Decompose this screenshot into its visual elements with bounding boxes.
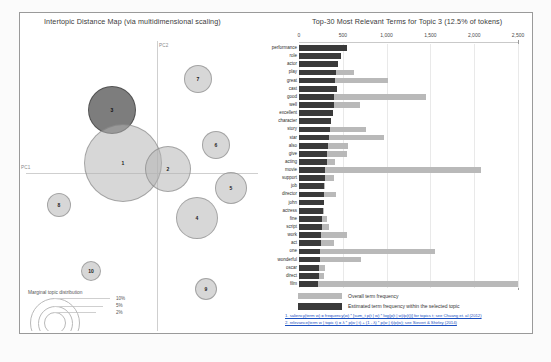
marginal-size-label: 10% <box>116 296 125 301</box>
topic-frequency-bar <box>299 240 321 246</box>
term-bar-row[interactable]: script <box>299 224 518 230</box>
topic-bubble-6[interactable]: 6 <box>202 131 230 159</box>
topic-bubble-2[interactable]: 2 <box>145 146 191 192</box>
term-label[interactable]: act <box>291 241 297 246</box>
term-bar-row[interactable]: director <box>299 192 518 198</box>
topic-bubble-label: 9 <box>205 287 208 292</box>
term-label[interactable]: support <box>282 176 297 181</box>
term-bar-row[interactable]: also <box>299 143 518 149</box>
term-bar-row[interactable]: john <box>299 200 518 206</box>
topic-bubble-4[interactable]: 4 <box>176 197 218 239</box>
legend-row-overall: Overall term frequency <box>298 292 533 300</box>
term-bar-row[interactable]: oscar <box>299 265 518 271</box>
topic-bubble-10[interactable]: 10 <box>81 261 101 281</box>
term-label[interactable]: film <box>290 282 297 287</box>
term-label[interactable]: give <box>289 152 297 157</box>
marginal-topic-distribution-legend: Marginal topic distribution 2%5%10% <box>28 290 148 331</box>
footnote-saliency[interactable]: 1. saliency(term w) = frequency(w) * [su… <box>285 312 535 319</box>
term-label[interactable]: one <box>289 249 297 254</box>
topic-bubble-5[interactable]: 5 <box>215 172 247 204</box>
term-label[interactable]: actor <box>287 62 297 67</box>
topic-frequency-bar <box>299 232 321 238</box>
term-bar-row[interactable]: direct <box>299 273 518 279</box>
term-bar-row[interactable]: act <box>299 240 518 246</box>
topic-bubble-label: 1 <box>122 161 125 166</box>
topic-frequency-bar <box>299 70 336 76</box>
term-bar-row[interactable]: film <box>299 281 518 287</box>
term-label[interactable]: direct <box>286 274 297 279</box>
term-label[interactable]: script <box>286 225 297 230</box>
term-label[interactable]: good <box>287 95 297 100</box>
topic-bubble-label: 5 <box>230 186 233 191</box>
term-bar-row[interactable]: fine <box>299 216 518 222</box>
term-bar-row[interactable]: give <box>299 151 518 157</box>
term-bar-row[interactable]: actress <box>299 208 518 214</box>
barchart-title: Top-30 Most Relevant Terms for Topic 3 (… <box>312 17 502 26</box>
term-label[interactable]: actress <box>282 208 297 213</box>
term-bar-row[interactable]: well <box>299 102 518 108</box>
term-label[interactable]: excellent <box>279 111 297 116</box>
overall-frequency-label: Overall term frequency <box>348 293 399 300</box>
term-bar-row[interactable]: one <box>299 249 518 255</box>
topic-bubble-label: 4 <box>196 216 199 221</box>
x-tick-label: 2,500 <box>512 32 525 38</box>
overall-frequency-swatch <box>298 293 342 300</box>
term-bar-row[interactable]: acting <box>299 159 518 165</box>
term-bar-row[interactable]: play <box>299 70 518 76</box>
term-label[interactable]: wonderful <box>277 257 297 262</box>
term-bar-row[interactable]: character <box>299 118 518 124</box>
relevant-terms-barchart[interactable]: 05001,0001,5002,0002,500 performancerole… <box>258 30 530 288</box>
topic-frequency-bar <box>299 86 337 92</box>
term-bar-row[interactable]: story <box>299 127 518 133</box>
term-bar-row[interactable]: support <box>299 175 518 181</box>
overall-frequency-bar <box>299 167 481 173</box>
term-label[interactable]: star <box>289 135 297 140</box>
footnote-relevance[interactable]: 2. relevance(term w | topic t) = λ * p(w… <box>285 319 535 326</box>
term-bar-row[interactable]: job <box>299 183 518 189</box>
term-label[interactable]: work <box>287 233 297 238</box>
topic-frequency-bar <box>299 192 324 198</box>
term-bar-row[interactable]: good <box>299 94 518 100</box>
term-bar-row[interactable]: excellent <box>299 110 518 116</box>
term-label[interactable]: also <box>289 143 297 148</box>
term-label[interactable]: fine <box>290 217 297 222</box>
intertopic-distance-map[interactable]: PC2 PC1 12345678910 Marginal topic distr… <box>20 13 265 331</box>
topic-bubble-9[interactable]: 9 <box>195 278 217 300</box>
x-tick-label: 2,000 <box>468 32 481 38</box>
term-bar-row[interactable]: great <box>299 78 518 84</box>
term-bar-row[interactable]: cast <box>299 86 518 92</box>
topic-frequency-bar <box>299 257 320 263</box>
term-label[interactable]: john <box>288 200 297 205</box>
term-label[interactable]: acting <box>285 160 297 165</box>
term-label[interactable]: oscar <box>286 265 297 270</box>
topic-bubble-7[interactable]: 7 <box>184 65 212 93</box>
topic-frequency-bar <box>299 167 325 173</box>
topic-frequency-bar <box>299 135 329 141</box>
x-tick-label: 500 <box>339 32 347 38</box>
term-bar-row[interactable]: movie <box>299 167 518 173</box>
term-label[interactable]: role <box>289 54 297 59</box>
term-label[interactable]: director <box>282 192 297 197</box>
barchart-legend: Overall term frequency Estimated term fr… <box>298 292 533 313</box>
term-label[interactable]: movie <box>285 168 297 173</box>
term-label[interactable]: performance <box>272 46 297 51</box>
term-label[interactable]: well <box>289 103 297 108</box>
topic-frequency-label: Estimated term frequency within the sele… <box>348 303 459 310</box>
term-label[interactable]: job <box>291 184 297 189</box>
term-bar-row[interactable]: star <box>299 135 518 141</box>
term-bar-row[interactable]: actor <box>299 61 518 67</box>
topic-frequency-bar <box>299 110 333 116</box>
barchart-top-axis <box>299 42 518 43</box>
term-label[interactable]: story <box>287 127 297 132</box>
term-label[interactable]: character <box>278 119 297 124</box>
topic-bubble-label: 3 <box>111 108 114 113</box>
term-bar-row[interactable]: work <box>299 232 518 238</box>
term-label[interactable]: cast <box>289 86 297 91</box>
term-bar-row[interactable]: role <box>299 53 518 59</box>
topic-bubble-8[interactable]: 8 <box>47 193 71 217</box>
term-bar-row[interactable]: performance <box>299 45 518 51</box>
term-label[interactable]: play <box>289 70 297 75</box>
term-label[interactable]: great <box>287 78 297 83</box>
topic-frequency-bar <box>299 78 335 84</box>
term-bar-row[interactable]: wonderful <box>299 257 518 263</box>
